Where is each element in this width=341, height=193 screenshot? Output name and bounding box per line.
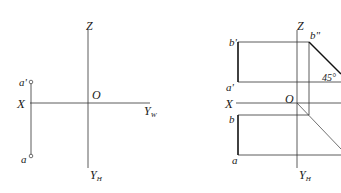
angle-45-label: 45°	[322, 72, 336, 83]
b-double-prime-label: b"	[310, 29, 321, 41]
a-label: a	[232, 154, 238, 166]
b-label: b	[229, 113, 235, 125]
left-a-prime-label: a'	[19, 76, 28, 88]
b-prime-label: b'	[229, 36, 238, 48]
side-view-segment-45deg	[309, 42, 341, 74]
left-yw-label: YW	[144, 104, 158, 119]
right-x-label: X	[224, 96, 234, 111]
left-x-label: X	[16, 96, 26, 111]
left-yw-sub: W	[151, 111, 158, 119]
right-origin-label: O	[285, 92, 294, 106]
right-z-label: Z	[297, 19, 304, 33]
point-a-marker	[29, 154, 33, 158]
left-origin-label: O	[92, 88, 101, 102]
left-diagram: Z O X YW YH a' a	[16, 19, 158, 183]
right-yh-label: YH	[299, 168, 312, 183]
point-a-prime-marker	[29, 80, 33, 84]
left-yh-label: YH	[90, 168, 103, 183]
left-z-label: Z	[86, 19, 93, 33]
left-a-label: a	[21, 153, 27, 165]
a-prime-label: a'	[226, 81, 235, 93]
right-diagram: Z O X YH b' b" a' b a 45°	[224, 19, 341, 183]
left-yh-sub: H	[96, 175, 103, 183]
miter-line-45deg	[297, 103, 341, 149]
right-yh-sub: H	[305, 175, 312, 183]
projection-diagrams: Z O X YW YH a' a Z O X YH b' b" a' b a 4…	[0, 0, 341, 193]
